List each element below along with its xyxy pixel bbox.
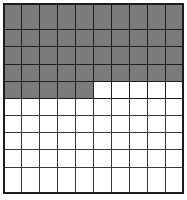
grid-cell-shaded[interactable] [165, 47, 183, 64]
grid-cell-unshaded[interactable] [147, 98, 165, 115]
grid-cell-shaded[interactable] [147, 4, 165, 30]
grid-cell-unshaded[interactable] [4, 150, 22, 167]
grid-cell-shaded[interactable] [4, 47, 22, 64]
grid-cell-unshaded[interactable] [165, 150, 183, 167]
grid-cell-shaded[interactable] [22, 4, 40, 30]
grid-cell-shaded[interactable] [76, 47, 94, 64]
grid-cell-unshaded[interactable] [111, 133, 129, 150]
grid-cell-unshaded[interactable] [147, 133, 165, 150]
grid-cell-unshaded[interactable] [40, 150, 58, 167]
grid-cell-unshaded[interactable] [58, 133, 76, 150]
grid-cell-unshaded[interactable] [40, 116, 58, 133]
grid-cell-shaded[interactable] [58, 47, 76, 64]
grid-cell-shaded[interactable] [147, 47, 165, 64]
grid-cell-unshaded[interactable] [93, 167, 111, 193]
grid-cell-unshaded[interactable] [76, 98, 94, 115]
grid-cell-shaded[interactable] [22, 64, 40, 81]
grid-cell-unshaded[interactable] [76, 167, 94, 193]
grid-cell-shaded[interactable] [4, 81, 22, 98]
grid-cell-unshaded[interactable] [40, 98, 58, 115]
grid-cell-shaded[interactable] [93, 4, 111, 30]
grid-cell-unshaded[interactable] [129, 133, 147, 150]
grid-cell-shaded[interactable] [111, 30, 129, 47]
grid-cell-shaded[interactable] [147, 64, 165, 81]
grid-cell-unshaded[interactable] [111, 98, 129, 115]
grid-cell-unshaded[interactable] [147, 150, 165, 167]
grid-cell-shaded[interactable] [76, 4, 94, 30]
grid-cell-shaded[interactable] [93, 30, 111, 47]
grid-cell-unshaded[interactable] [4, 133, 22, 150]
grid-cell-unshaded[interactable] [40, 167, 58, 193]
grid-cell-unshaded[interactable] [4, 116, 22, 133]
grid-cell-unshaded[interactable] [58, 98, 76, 115]
grid-cell-unshaded[interactable] [4, 167, 22, 193]
grid-cell-shaded[interactable] [111, 64, 129, 81]
grid-cell-unshaded[interactable] [58, 167, 76, 193]
grid-cell-unshaded[interactable] [93, 81, 111, 98]
grid-cell-unshaded[interactable] [40, 133, 58, 150]
grid-cell-unshaded[interactable] [111, 81, 129, 98]
grid-cell-shaded[interactable] [58, 81, 76, 98]
grid-cell-unshaded[interactable] [147, 116, 165, 133]
grid-cell-unshaded[interactable] [22, 116, 40, 133]
grid-cell-unshaded[interactable] [129, 150, 147, 167]
grid-cell-shaded[interactable] [93, 64, 111, 81]
grid-cell-shaded[interactable] [58, 4, 76, 30]
grid-cell-shaded[interactable] [76, 81, 94, 98]
grid-cell-shaded[interactable] [165, 30, 183, 47]
grid-cell-unshaded[interactable] [111, 150, 129, 167]
grid-cell-shaded[interactable] [58, 30, 76, 47]
grid-cell-shaded[interactable] [76, 64, 94, 81]
grid-cell-unshaded[interactable] [129, 81, 147, 98]
grid-cell-shaded[interactable] [40, 47, 58, 64]
grid-cell-unshaded[interactable] [129, 116, 147, 133]
grid-cell-unshaded[interactable] [93, 150, 111, 167]
grid-cell-unshaded[interactable] [58, 150, 76, 167]
grid-cell-shaded[interactable] [4, 4, 22, 30]
grid-cell-shaded[interactable] [4, 30, 22, 47]
grid-cell-unshaded[interactable] [147, 167, 165, 193]
grid-cell-unshaded[interactable] [22, 150, 40, 167]
grid-cell-unshaded[interactable] [76, 150, 94, 167]
grid-cell-unshaded[interactable] [129, 167, 147, 193]
grid-cell-shaded[interactable] [111, 47, 129, 64]
grid-cell-shaded[interactable] [165, 64, 183, 81]
grid-cell-shaded[interactable] [165, 4, 183, 30]
grid-cell-shaded[interactable] [4, 64, 22, 81]
grid-cell-shaded[interactable] [129, 30, 147, 47]
grid-cell-unshaded[interactable] [147, 81, 165, 98]
grid-cell-unshaded[interactable] [165, 81, 183, 98]
grid-cell-unshaded[interactable] [93, 98, 111, 115]
grid-cell-shaded[interactable] [76, 30, 94, 47]
grid-cell-shaded[interactable] [129, 64, 147, 81]
grid-cell-shaded[interactable] [22, 30, 40, 47]
grid-cell-shaded[interactable] [22, 81, 40, 98]
grid-cell-shaded[interactable] [40, 30, 58, 47]
grid-cell-shaded[interactable] [129, 47, 147, 64]
grid-cell-unshaded[interactable] [165, 98, 183, 115]
grid-cell-shaded[interactable] [40, 64, 58, 81]
grid-cell-unshaded[interactable] [165, 116, 183, 133]
grid-cell-unshaded[interactable] [165, 133, 183, 150]
grid-cell-shaded[interactable] [40, 4, 58, 30]
grid-cell-unshaded[interactable] [22, 98, 40, 115]
grid-cell-shaded[interactable] [58, 64, 76, 81]
grid-cell-shaded[interactable] [93, 47, 111, 64]
grid-cell-unshaded[interactable] [22, 167, 40, 193]
grid-cell-unshaded[interactable] [22, 133, 40, 150]
grid-cell-shaded[interactable] [22, 47, 40, 64]
grid-cell-unshaded[interactable] [93, 116, 111, 133]
grid-cell-shaded[interactable] [129, 4, 147, 30]
grid-cell-shaded[interactable] [111, 4, 129, 30]
grid-cell-shaded[interactable] [147, 30, 165, 47]
grid-cell-unshaded[interactable] [165, 167, 183, 193]
grid-cell-unshaded[interactable] [76, 116, 94, 133]
grid-cell-unshaded[interactable] [58, 116, 76, 133]
grid-cell-unshaded[interactable] [111, 167, 129, 193]
grid-cell-shaded[interactable] [40, 81, 58, 98]
grid-cell-unshaded[interactable] [4, 98, 22, 115]
grid-cell-unshaded[interactable] [129, 98, 147, 115]
grid-cell-unshaded[interactable] [76, 133, 94, 150]
grid-cell-unshaded[interactable] [93, 133, 111, 150]
grid-cell-unshaded[interactable] [111, 116, 129, 133]
